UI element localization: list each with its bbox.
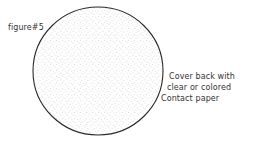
note-line-3: Contact paper — [161, 94, 235, 105]
figure-label: figure#5 — [8, 23, 44, 33]
note-text: Cover back with clear or colored Contact… — [161, 72, 235, 105]
circle-diagram — [0, 0, 253, 141]
stippled-circle-fill-2 — [34, 7, 162, 135]
note-line-2: clear or colored — [161, 83, 235, 94]
note-line-1: Cover back with — [161, 72, 235, 83]
